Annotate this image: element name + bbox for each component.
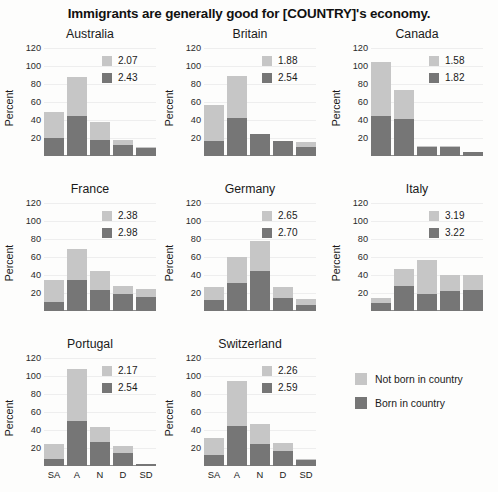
bar-segment-born bbox=[90, 290, 110, 311]
y-axis-tick-label: 40 bbox=[191, 425, 201, 435]
y-axis-tick-label: 100 bbox=[186, 216, 201, 226]
y-axis-tick-label: 120 bbox=[186, 43, 201, 53]
bar-SA bbox=[44, 444, 64, 466]
panel-mean-legend: 2.072.43 bbox=[102, 52, 160, 86]
page-title: Immigrants are generally good for [COUNT… bbox=[0, 6, 498, 21]
panel-mean-legend: 1.882.54 bbox=[262, 52, 320, 86]
bar-segment-born bbox=[371, 116, 391, 157]
bar-N bbox=[417, 260, 437, 311]
bar-segment-not-born bbox=[394, 269, 414, 286]
bar-segment-born bbox=[136, 464, 156, 466]
x-axis-tick-label: N bbox=[90, 469, 110, 480]
y-axis-tick-label: 80 bbox=[31, 79, 41, 89]
panel-legend-item-born: 1.82 bbox=[429, 69, 487, 86]
bar-segment-born bbox=[90, 140, 110, 156]
panel-mean-not-born: 1.88 bbox=[278, 55, 297, 66]
panel-legend-item-born: 3.22 bbox=[429, 224, 487, 241]
bar-segment-not-born bbox=[394, 90, 414, 119]
y-axis-tick-label: 120 bbox=[353, 43, 368, 53]
y-axis-tick-label: 80 bbox=[191, 234, 201, 244]
panel-legend-item-not-born: 1.88 bbox=[262, 52, 320, 69]
legend-swatch-born-icon bbox=[102, 73, 112, 83]
bar-segment-not-born bbox=[463, 275, 483, 290]
bar-segment-born bbox=[90, 442, 110, 466]
bar-SA bbox=[371, 298, 391, 311]
bar-segment-not-born bbox=[90, 427, 110, 441]
panel-mean-legend: 1.581.82 bbox=[429, 52, 487, 86]
x-axis-tick-label: SD bbox=[296, 469, 316, 480]
panel-grid: AustraliaPercent204060801001202.072.43Br… bbox=[0, 26, 498, 492]
y-axis-tick-label: 100 bbox=[26, 371, 41, 381]
legend-swatch-not-born-icon bbox=[262, 366, 272, 376]
x-axis-tick-label: N bbox=[250, 469, 270, 480]
y-axis-label: Percent bbox=[163, 400, 175, 437]
bar-segment-born bbox=[394, 119, 414, 156]
legend-swatch-born-icon bbox=[429, 228, 439, 238]
legend-swatch-born-icon bbox=[102, 383, 112, 393]
y-axis-tick-label: 120 bbox=[26, 353, 41, 363]
bar-segment-born bbox=[136, 148, 156, 156]
chart-panel-switzerland: SwitzerlandPercent20406080100120SAANDSD2… bbox=[160, 336, 326, 491]
x-axis-tick-label: SA bbox=[44, 469, 64, 480]
y-axis-label: Percent bbox=[163, 245, 175, 282]
y-axis-tick-label: 120 bbox=[26, 198, 41, 208]
bar-segment-born bbox=[204, 141, 224, 156]
bar-segment-born bbox=[227, 426, 247, 467]
bar-SD bbox=[296, 142, 316, 156]
bar-segment-not-born bbox=[204, 287, 224, 301]
bar-segment-not-born bbox=[67, 369, 87, 421]
y-axis-label: Percent bbox=[3, 245, 15, 282]
y-axis-tick-label: 40 bbox=[358, 270, 368, 280]
legend-swatch-born-icon bbox=[355, 397, 367, 409]
bar-segment-not-born bbox=[136, 289, 156, 297]
bar-segment-not-born bbox=[227, 76, 247, 118]
bar-segment-born bbox=[273, 141, 293, 156]
bar-segment-born bbox=[136, 297, 156, 311]
bar-segment-born bbox=[463, 152, 483, 156]
bar-segment-born bbox=[296, 147, 316, 156]
bar-D bbox=[273, 287, 293, 311]
legend-item-not-born: Not born in country bbox=[355, 367, 490, 391]
bar-segment-born bbox=[204, 300, 224, 311]
legend-swatch-not-born-icon bbox=[262, 211, 272, 221]
y-axis-tick-label: 120 bbox=[186, 198, 201, 208]
bar-segment-born bbox=[204, 455, 224, 466]
legend-swatch-not-born-icon bbox=[262, 56, 272, 66]
bar-segment-born bbox=[250, 134, 270, 156]
bar-segment-not-born bbox=[417, 260, 437, 294]
bar-SA bbox=[44, 280, 64, 312]
panel-title: Switzerland bbox=[160, 337, 326, 351]
panel-mean-not-born: 2.38 bbox=[118, 210, 137, 221]
bar-D bbox=[273, 141, 293, 156]
y-axis-label: Percent bbox=[163, 90, 175, 127]
bar-segment-not-born bbox=[67, 77, 87, 117]
y-axis-tick-label: 20 bbox=[358, 288, 368, 298]
bar-N bbox=[250, 134, 270, 156]
chart-legend: Not born in country Born in country bbox=[355, 367, 490, 415]
bar-segment-born bbox=[44, 459, 64, 466]
panel-legend-item-born: 2.43 bbox=[102, 69, 160, 86]
x-axis-tick-label: A bbox=[67, 469, 87, 480]
y-axis-tick-label: 80 bbox=[31, 234, 41, 244]
y-axis-tick-label: 40 bbox=[31, 270, 41, 280]
bar-segment-not-born bbox=[90, 122, 110, 140]
bar-A bbox=[67, 369, 87, 466]
bar-segment-not-born bbox=[227, 257, 247, 283]
bar-segment-not-born bbox=[204, 438, 224, 455]
y-axis-tick-label: 20 bbox=[191, 443, 201, 453]
panel-legend-item-born: 2.54 bbox=[102, 379, 160, 396]
legend-swatch-not-born-icon bbox=[102, 211, 112, 221]
x-axis-ticks: SAANDSD bbox=[44, 469, 156, 480]
panel-legend-item-born: 2.98 bbox=[102, 224, 160, 241]
bar-SD bbox=[463, 275, 483, 311]
bar-SA bbox=[371, 62, 391, 156]
bar-SA bbox=[204, 287, 224, 311]
bar-D bbox=[440, 146, 460, 156]
y-axis-tick-label: 60 bbox=[191, 407, 201, 417]
bar-A bbox=[394, 269, 414, 311]
bar-segment-born bbox=[417, 294, 437, 311]
y-axis-label: Percent bbox=[330, 90, 342, 127]
bar-D bbox=[113, 446, 133, 466]
panel-mean-born: 2.54 bbox=[278, 72, 297, 83]
bar-segment-born bbox=[440, 291, 460, 311]
